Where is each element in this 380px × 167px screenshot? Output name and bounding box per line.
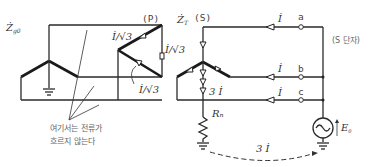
return-arrowhead-icon bbox=[312, 151, 318, 156]
note-line-1: 여기서는 전류가 bbox=[50, 123, 103, 133]
terminal-a bbox=[299, 25, 304, 30]
line-b-arrow-icon bbox=[266, 74, 274, 80]
delta-arrow-right-icon bbox=[160, 53, 164, 59]
terminal-b-label: b bbox=[298, 63, 304, 74]
source-label: E0 bbox=[340, 122, 352, 134]
return-current-label: 3 İ bbox=[256, 143, 271, 154]
neutral-arrow-2-icon bbox=[200, 79, 206, 85]
neutral-arrow-1-icon bbox=[200, 70, 206, 76]
secondary-arrow-left-icon bbox=[186, 67, 193, 72]
z-g0-label: Żg0 bbox=[5, 22, 21, 35]
terminal-b bbox=[299, 75, 304, 80]
delta-current-right-label: İ/√3 bbox=[164, 44, 185, 55]
primary-ground-icon bbox=[43, 89, 55, 95]
delta-arrow-top-icon bbox=[139, 33, 146, 38]
delta-current-leader bbox=[131, 66, 136, 84]
junction-b bbox=[322, 76, 325, 79]
secondary-arrow-top-icon bbox=[200, 42, 206, 48]
s-terminal-label: (S 단자) bbox=[332, 35, 360, 45]
secondary-label: (S) bbox=[194, 12, 211, 23]
neutral-current-label: 3 İ bbox=[209, 86, 224, 97]
z-t-label: ŻT bbox=[176, 14, 189, 26]
delta-current-diag-label: İ/√3 bbox=[138, 84, 159, 95]
line-current-a-label: İ bbox=[277, 13, 283, 24]
neutral-ground-icon bbox=[197, 143, 209, 149]
neutral-resistor-icon bbox=[199, 117, 207, 142]
zero-sequence-circuit-diagram: Żg0 (P) ŻT (S) İ/√3 İ/√3 İ/√3 3 İ İ İ İ … bbox=[0, 0, 380, 167]
resistor-label: Rₙ bbox=[211, 108, 224, 119]
terminal-c bbox=[299, 98, 304, 103]
primary-label: (P) bbox=[142, 13, 159, 24]
delta-current-top-label: İ/√3 bbox=[111, 31, 132, 42]
line-current-c-label: İ bbox=[277, 87, 283, 98]
terminal-c-label: c bbox=[298, 86, 304, 97]
sine-wave-icon bbox=[316, 125, 330, 131]
line-current-b-label: İ bbox=[277, 63, 283, 74]
source-voltage-arrowhead-icon bbox=[335, 119, 339, 123]
note-line-2: 흐르지 않는다 bbox=[50, 137, 96, 146]
line-c-arrow-icon bbox=[266, 97, 274, 103]
terminal-a-label: a bbox=[298, 11, 304, 22]
neutral-arrow-3-icon bbox=[200, 88, 206, 94]
source-ground-icon bbox=[317, 143, 329, 149]
junction-c bbox=[322, 99, 325, 102]
line-a-arrow-icon bbox=[266, 24, 274, 30]
